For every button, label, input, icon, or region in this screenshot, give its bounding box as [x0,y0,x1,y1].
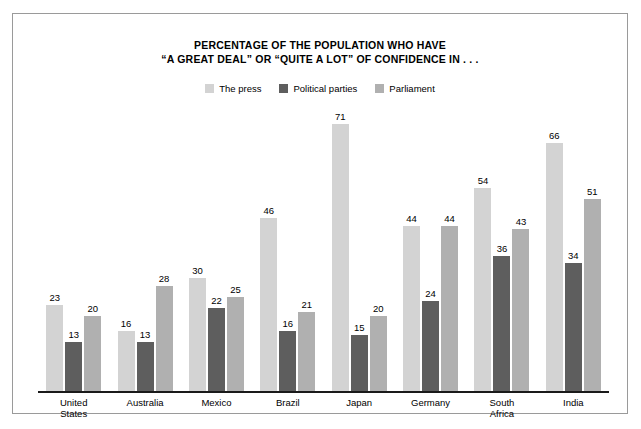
bar-column[interactable]: 34 [565,109,582,391]
bar-rect[interactable] [156,286,173,391]
x-axis-label-line: States [38,408,109,419]
bar-column[interactable]: 44 [403,109,420,391]
bar-group-bars: 161328 [109,109,180,391]
bar-column[interactable]: 24 [422,109,439,391]
legend-label: The press [219,83,261,94]
bar-column[interactable]: 22 [208,109,225,391]
bar-rect[interactable] [208,308,225,391]
bar-rect[interactable] [474,188,491,391]
bar-group: 663451 [538,109,609,391]
x-axis-line [38,391,609,393]
bar-column[interactable]: 20 [84,109,101,391]
bar-group-bars: 231320 [38,109,109,391]
bar-group: 711520 [324,109,395,391]
bar-rect[interactable] [512,229,529,391]
x-axis-label-line: South [466,397,537,408]
chart-plot-area: 2313201613283022254616217115204424445436… [38,109,609,391]
bar-column[interactable]: 13 [137,109,154,391]
x-axis-label: Australia [109,397,180,408]
bar-group-bars: 711520 [324,109,395,391]
bar-column[interactable]: 43 [512,109,529,391]
x-axis-label: Mexico [181,397,252,408]
x-axis-label: India [538,397,609,408]
bar-rect[interactable] [65,342,82,391]
bar-group-bars: 442444 [395,109,466,391]
bar-column[interactable]: 16 [118,109,135,391]
bar-rect[interactable] [332,124,349,391]
bar-value-label: 28 [149,273,179,284]
bar-value-label: 25 [220,284,250,295]
bar-rect[interactable] [84,316,101,391]
bar-column[interactable]: 16 [279,109,296,391]
bar-group-bars: 543643 [466,109,537,391]
bar-rect[interactable] [298,312,315,391]
x-axis-label-line: India [538,397,609,408]
bar-group-bars: 461621 [252,109,323,391]
bar-column[interactable]: 21 [298,109,315,391]
bar-rect[interactable] [565,263,582,391]
bar-rect[interactable] [493,256,510,391]
x-axis-label-line: Australia [109,397,180,408]
x-axis-label: Japan [324,397,395,408]
bar-column[interactable]: 46 [260,109,277,391]
bar-value-label: 51 [577,186,607,197]
bar-column[interactable]: 44 [441,109,458,391]
bar-rect[interactable] [351,335,368,391]
x-axis-label: UnitedStates [38,397,109,419]
legend-item-1: Political parties [279,83,357,94]
x-axis-label-line: Mexico [181,397,252,408]
bar-value-label: 44 [435,213,465,224]
bar-rect[interactable] [260,218,277,391]
bar-rect[interactable] [403,226,420,391]
bar-group: 231320 [38,109,109,391]
bar-column[interactable]: 25 [227,109,244,391]
bar-column[interactable]: 20 [370,109,387,391]
bar-rect[interactable] [584,199,601,391]
bar-group: 161328 [109,109,180,391]
x-axis-label-line: Germany [395,397,466,408]
x-axis-label-line: Japan [324,397,395,408]
bar-rect[interactable] [422,301,439,391]
bar-group: 442444 [395,109,466,391]
bar-column[interactable]: 13 [65,109,82,391]
x-axis-label: Brazil [252,397,323,408]
bar-group: 302225 [181,109,252,391]
chart-legend: The pressPolitical partiesParliament [13,83,627,94]
bar-group: 461621 [252,109,323,391]
legend-swatch-icon [279,84,288,93]
x-axis-label-line: Brazil [252,397,323,408]
x-axis-label-line: Africa [466,408,537,419]
bar-value-label: 20 [363,303,393,314]
bar-group: 543643 [466,109,537,391]
bar-rect[interactable] [46,305,63,391]
bar-group-bars: 302225 [181,109,252,391]
bar-group-bars: 663451 [538,109,609,391]
bar-column[interactable]: 71 [332,109,349,391]
chart-title-line-2: “A GREAT DEAL” OR “QUITE A LOT” OF CONFI… [13,52,627,66]
bar-rect[interactable] [279,331,296,391]
legend-item-2: Parliament [375,83,434,94]
x-axis-label: SouthAfrica [466,397,537,419]
x-axis-label: Germany [395,397,466,408]
bar-column[interactable]: 30 [189,109,206,391]
bar-rect[interactable] [441,226,458,391]
bar-rect[interactable] [227,297,244,391]
chart-title: PERCENTAGE OF THE POPULATION WHO HAVE “A… [13,38,627,66]
legend-item-0: The press [205,83,261,94]
bar-value-label: 43 [506,216,536,227]
bar-column[interactable]: 36 [493,109,510,391]
chart-figure: PERCENTAGE OF THE POPULATION WHO HAVE “A… [12,13,628,414]
legend-label: Parliament [389,83,434,94]
bar-column[interactable]: 28 [156,109,173,391]
bar-column[interactable]: 15 [351,109,368,391]
bar-value-label: 21 [292,299,322,310]
bar-rect[interactable] [370,316,387,391]
bar-column[interactable]: 51 [584,109,601,391]
legend-swatch-icon [205,84,214,93]
legend-label: Political parties [293,83,357,94]
bar-rect[interactable] [546,143,563,391]
bar-value-label: 20 [78,303,108,314]
bar-rect[interactable] [137,342,154,391]
bar-column[interactable]: 23 [46,109,63,391]
x-axis-category-labels: UnitedStatesAustraliaMexicoBrazilJapanGe… [38,397,609,427]
